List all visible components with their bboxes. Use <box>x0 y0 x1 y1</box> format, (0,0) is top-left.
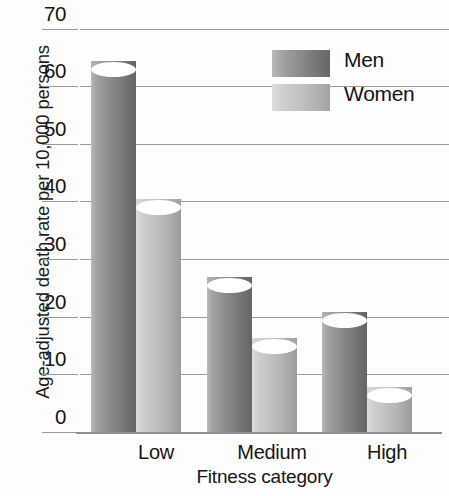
y-tick-label-0: 0 <box>36 405 66 429</box>
bar-top-cap <box>322 313 367 328</box>
bar-women-low <box>136 207 181 432</box>
y-tick-mark-0 <box>42 432 78 433</box>
legend-swatch-men-icon <box>272 50 330 77</box>
y-tick-label-60: 60 <box>36 59 66 83</box>
x-axis-line <box>76 432 442 434</box>
y-tick-label-50: 50 <box>36 117 66 141</box>
bar-men-high <box>322 320 367 432</box>
y-tick-mark-60 <box>42 86 78 87</box>
legend-swatch-women-icon <box>272 84 330 111</box>
bar-chart: Age-adjusted death rate per 10,000 perso… <box>0 0 449 496</box>
x-category-label-low: Low <box>111 441 201 464</box>
x-category-label-medium: Medium <box>227 441 317 464</box>
bar-body <box>136 207 181 432</box>
bar-top-cap <box>367 388 412 403</box>
plot-area <box>80 0 449 436</box>
y-tick-label-10: 10 <box>36 347 66 371</box>
bar-body <box>252 346 297 432</box>
y-tick-label-70: 70 <box>36 2 66 26</box>
y-tick-mark-40 <box>42 201 78 202</box>
gridline-70 <box>80 29 449 30</box>
bar-cap-edge <box>91 62 136 77</box>
bar-men-medium <box>207 285 252 432</box>
bar-top-cap <box>136 200 181 215</box>
y-tick-mark-30 <box>42 259 78 260</box>
bar-body <box>322 320 367 432</box>
legend-label-men: Men <box>344 48 384 72</box>
y-tick-label-30: 30 <box>36 232 66 256</box>
bar-women-medium <box>252 346 297 432</box>
bar-body <box>207 285 252 432</box>
bar-men-low <box>91 69 136 432</box>
x-axis-title: Fitness category <box>80 466 449 488</box>
bar-women-high <box>367 395 412 432</box>
y-tick-label-20: 20 <box>36 290 66 314</box>
x-category-label-high: High <box>342 441 432 464</box>
y-tick-mark-70 <box>42 29 78 30</box>
y-tick-mark-10 <box>42 374 78 375</box>
y-tick-label-40: 40 <box>36 174 66 198</box>
bar-top-cap <box>207 278 252 293</box>
legend-label-women: Women <box>344 82 414 106</box>
y-tick-mark-20 <box>42 317 78 318</box>
y-tick-mark-50 <box>42 144 78 145</box>
gridline-60-tick <box>425 86 433 87</box>
bar-top-cap <box>252 339 297 354</box>
bar-body <box>91 69 136 432</box>
